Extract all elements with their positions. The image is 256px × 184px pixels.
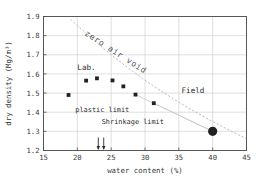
annotation-shrinkage-limit: Shrinkage limit: [102, 118, 164, 126]
data-point-lab-4: [121, 84, 125, 88]
data-point-lab-6: [152, 101, 156, 105]
x-tick-label: 20: [73, 153, 82, 162]
y-tick-label: 1.6: [27, 70, 40, 79]
y-tick-label: 1.4: [27, 108, 40, 117]
y-tick-label: 1.5: [27, 89, 40, 98]
annotation-plastic-limit: plastic limit: [75, 106, 129, 114]
y-axis-title: dry density (Mg/m³): [4, 41, 13, 126]
y-tick-label: 1.2: [27, 146, 40, 155]
data-point-lab-5: [134, 93, 138, 97]
y-tick-label: 1.3: [27, 127, 40, 136]
x-tick-label: 35: [175, 153, 184, 162]
y-tick-label: 1.9: [27, 12, 40, 21]
x-tick-label: 40: [208, 153, 217, 162]
data-point-lab-0: [67, 93, 71, 97]
x-tick-label: 25: [107, 153, 116, 162]
compaction-curve-chart: 15202530354045 1.21.31.41.51.61.71.81.9 …: [0, 0, 256, 184]
x-tick-label: 30: [141, 153, 150, 162]
x-tick-label: 15: [39, 153, 48, 162]
data-point-field-0: [208, 127, 217, 136]
x-axis-title: water content (%): [107, 166, 183, 175]
data-point-lab-1: [84, 79, 88, 83]
annotation-lab: Lab.: [77, 63, 95, 72]
data-point-lab-2: [95, 76, 99, 80]
annotation-field: Field: [182, 86, 205, 95]
data-point-lab-3: [111, 79, 115, 83]
x-tick-label: 45: [242, 153, 251, 162]
y-tick-label: 1.8: [27, 31, 40, 40]
y-tick-label: 1.7: [27, 50, 40, 59]
